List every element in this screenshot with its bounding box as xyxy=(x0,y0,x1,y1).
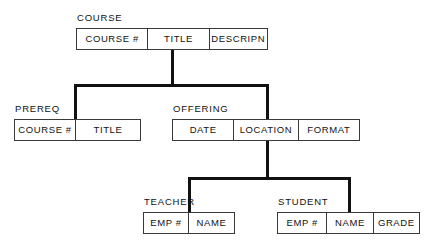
field-course-title: TITLE xyxy=(148,29,209,49)
connector-offering-children-drop xyxy=(266,141,269,180)
connector-teacher-drop xyxy=(188,177,191,213)
field-prereq-title: TITLE xyxy=(76,120,140,140)
segment-course: COURSE # TITLE DESCRIPN xyxy=(76,28,268,50)
field-teacher-name: NAME xyxy=(189,213,234,233)
field-prereq-course-number: COURSE # xyxy=(15,120,76,140)
connector-prereq-drop xyxy=(74,84,77,121)
field-offering-date: DATE xyxy=(173,120,234,140)
hierarchical-structure-diagram: COURSE COURSE # TITLE DESCRIPN PREREQ CO… xyxy=(0,0,426,251)
field-student-name: NAME xyxy=(327,213,373,233)
segment-label-prereq: PREREQ xyxy=(15,104,60,114)
connector-level3-bus xyxy=(188,177,351,180)
field-offering-format: FORMAT xyxy=(299,120,359,140)
segment-label-course: COURSE xyxy=(77,13,122,23)
connector-student-drop xyxy=(348,177,351,213)
field-course-descripn: DESCRIPN xyxy=(210,29,267,49)
connector-course-drop xyxy=(171,50,174,87)
segment-student: EMP # NAME GRADE xyxy=(277,212,420,234)
segment-offering: DATE LOCATION FORMAT xyxy=(172,119,360,141)
field-student-grade: GRADE xyxy=(374,213,419,233)
segment-prereq: COURSE # TITLE xyxy=(14,119,141,141)
segment-label-teacher: TEACHER xyxy=(144,197,195,207)
connector-offering-drop xyxy=(266,84,269,121)
field-offering-location: LOCATION xyxy=(234,120,298,140)
connector-level2-bus xyxy=(74,84,269,87)
segment-label-offering: OFFERING xyxy=(173,104,228,114)
field-teacher-emp-number: EMP # xyxy=(144,213,189,233)
segment-label-student: STUDENT xyxy=(278,197,328,207)
field-student-emp-number: EMP # xyxy=(278,213,327,233)
segment-teacher: EMP # NAME xyxy=(143,212,235,234)
field-course-course-number: COURSE # xyxy=(77,29,148,49)
